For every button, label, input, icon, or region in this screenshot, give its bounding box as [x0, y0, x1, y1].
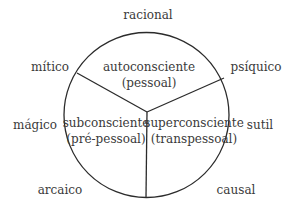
- label-causal: causal: [217, 183, 256, 197]
- region-right-label: superconsciente (transpessoal): [144, 115, 244, 147]
- label-psiquico: psíquico: [231, 60, 282, 74]
- label-racional: racional: [123, 8, 172, 22]
- label-magico: mágico: [13, 118, 57, 132]
- region-left-line1: subconsciente: [63, 115, 150, 131]
- region-left-line2: (pré-pessoal): [63, 131, 150, 147]
- label-mitico: mítico: [31, 60, 69, 74]
- region-right-line2: (transpessoal): [144, 131, 244, 147]
- region-left-label: subconsciente (pré-pessoal): [63, 115, 150, 147]
- region-top-line2: (pessoal): [103, 75, 195, 91]
- consciousness-circle-diagram: racional mítico psíquico mágico sutil ar…: [0, 0, 292, 218]
- region-top-line1: autoconsciente: [103, 59, 195, 75]
- region-right-line1: superconsciente: [144, 115, 244, 131]
- label-arcaico: arcaico: [38, 183, 83, 197]
- region-top-label: autoconsciente (pessoal): [103, 59, 195, 91]
- label-sutil: sutil: [247, 118, 273, 132]
